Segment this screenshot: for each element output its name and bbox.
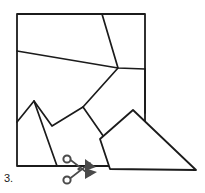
puzzle-drawing: [0, 0, 205, 193]
scissors-pivot: [77, 167, 80, 170]
scissors-tip-lower: [85, 168, 97, 179]
item-number-label: 3.: [4, 172, 13, 184]
scissors-ring-upper: [63, 155, 70, 162]
scissors-ring-lower: [63, 176, 70, 183]
tangram-figure: 3.: [0, 0, 205, 193]
